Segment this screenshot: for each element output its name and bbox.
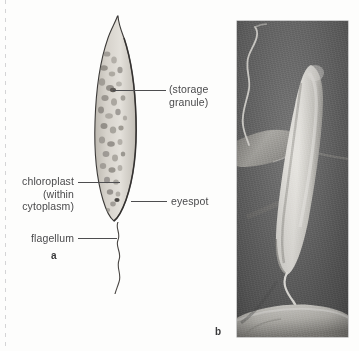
flagellum-illustration <box>104 222 144 294</box>
leader-line-storage-granule <box>113 90 166 91</box>
label-chloroplast: chloroplast(withincytoplasm) <box>0 175 74 213</box>
eyespot-marker <box>114 198 119 202</box>
leader-line-chloroplast <box>78 182 120 183</box>
panel-letter-a: a <box>51 250 57 261</box>
cell-outline <box>95 16 136 221</box>
label-flagellum: flagellum <box>0 232 74 245</box>
figure-euglena: (storagegranule) chloroplast(withincytop… <box>0 0 359 351</box>
label-storage-granule: (storagegranule) <box>169 83 208 108</box>
label-chloroplast-line1: chloroplast <box>22 175 74 187</box>
panel-a-cell-drawing <box>88 14 148 229</box>
micrograph-vignette <box>237 21 348 337</box>
leader-line-flagellum <box>78 238 117 239</box>
label-storage-granule-line2: granule) <box>169 96 208 108</box>
euglena-cell-illustration <box>88 14 148 229</box>
label-eyespot: eyespot <box>171 195 208 208</box>
panel-b-micrograph <box>237 21 348 337</box>
label-chloroplast-line3: cytoplasm) <box>22 200 74 212</box>
panel-letter-b: b <box>215 326 221 337</box>
label-chloroplast-line2: (within <box>43 188 74 200</box>
label-storage-granule-line1: (storage <box>169 83 208 95</box>
leader-line-eyespot <box>131 201 167 202</box>
